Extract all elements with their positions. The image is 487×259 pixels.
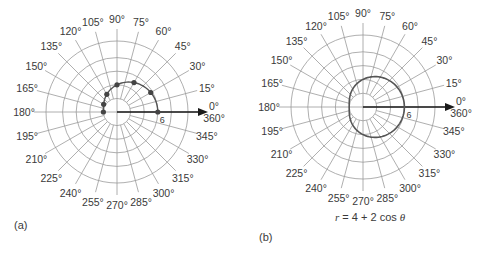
plotted-curve bbox=[103, 82, 157, 112]
equation-body: = 4 + 2 cos bbox=[339, 211, 400, 223]
angle-tick-label: 45° bbox=[422, 35, 438, 47]
equation-caption: r = 4 + 2 cos θ bbox=[335, 211, 405, 223]
angle-tick-label: 90° bbox=[355, 7, 371, 19]
angle-tick-label: 45° bbox=[175, 40, 191, 52]
angle-tick-label: 30° bbox=[190, 60, 206, 72]
angle-tick-label: 210° bbox=[26, 153, 48, 165]
angle-tick-label: 330° bbox=[434, 148, 456, 160]
angle-tick-label: 180° bbox=[258, 101, 280, 113]
angle-tick-label: 330° bbox=[187, 153, 209, 165]
panel-label-a: (a) bbox=[14, 219, 27, 231]
angle-tick-label: 255° bbox=[328, 192, 350, 204]
angle-tick-label: 225° bbox=[286, 167, 308, 179]
angle-tick-label: 90° bbox=[109, 13, 125, 25]
angle-tick-label: 300° bbox=[153, 187, 175, 199]
angle-tick-label: 345° bbox=[196, 130, 218, 142]
angle-tick-label: 60° bbox=[156, 25, 172, 37]
angle-tick-label: 315° bbox=[172, 172, 194, 184]
grid-spoke bbox=[304, 48, 354, 98]
angle-tick-label: 135° bbox=[286, 35, 308, 47]
angle-tick-label: 135° bbox=[40, 40, 62, 52]
data-point bbox=[101, 109, 106, 114]
angle-tick-label: 165° bbox=[16, 82, 38, 94]
angle-tick-label: 30° bbox=[436, 54, 452, 66]
data-point bbox=[114, 82, 119, 87]
data-point bbox=[101, 102, 106, 107]
angle-tick-label: 120° bbox=[305, 20, 327, 32]
angle-tick-label: 105° bbox=[82, 16, 104, 28]
angle-tick-label: 345° bbox=[443, 125, 465, 137]
radial-value-label: 6 bbox=[406, 110, 411, 120]
data-point bbox=[131, 80, 136, 85]
angle-tick-label: 180° bbox=[13, 106, 35, 118]
angle-tick-label: 105° bbox=[328, 10, 350, 22]
angle-tick-label: 195° bbox=[261, 125, 283, 137]
angle-tick-label: 120° bbox=[60, 25, 82, 37]
polar-chart-a: 0°360°15°30°45°60°75°90°105°120°135°150°… bbox=[0, 0, 240, 210]
angle-tick-label: 255° bbox=[82, 196, 104, 208]
panel-label-b: (b) bbox=[259, 231, 272, 243]
angle-tick-label: 165° bbox=[261, 77, 283, 89]
angle-tick-label: 15° bbox=[199, 82, 215, 94]
equation-theta: θ bbox=[400, 211, 405, 223]
angle-tick-label: 60° bbox=[402, 20, 418, 32]
angle-tick-label: 270° bbox=[106, 199, 128, 210]
data-point bbox=[148, 90, 153, 95]
data-point bbox=[155, 109, 160, 114]
angle-tick-label: 75° bbox=[133, 16, 149, 28]
angle-tick-label: 225° bbox=[40, 172, 62, 184]
radial-value-label: 6 bbox=[160, 115, 165, 125]
angle-tick-label: 150° bbox=[26, 60, 48, 72]
grid-spoke bbox=[373, 48, 423, 98]
angle-tick-label: 285° bbox=[130, 196, 152, 208]
angle-tick-label: 240° bbox=[60, 187, 82, 199]
angle-tick-label: 300° bbox=[399, 182, 421, 194]
angle-tick-label: 15° bbox=[446, 77, 462, 89]
grid-spoke bbox=[304, 117, 354, 167]
angle-tick-label: 240° bbox=[305, 182, 327, 194]
polar-chart-b: 0°360°15°30°45°60°75°90°105°120°135°150°… bbox=[240, 0, 487, 210]
angle-tick-label: 315° bbox=[419, 167, 441, 179]
angle-tick-label: 75° bbox=[379, 10, 395, 22]
angle-tick-label: 285° bbox=[376, 192, 398, 204]
angle-tick-label: 270° bbox=[352, 195, 374, 207]
polar-plot-a: 0°360°15°30°45°60°75°90°105°120°135°150°… bbox=[0, 0, 240, 259]
grid-spoke bbox=[373, 117, 423, 167]
data-point bbox=[104, 92, 109, 97]
angle-tick-label: 210° bbox=[271, 148, 293, 160]
angle-tick-label: 150° bbox=[271, 54, 293, 66]
angle-tick-label: 195° bbox=[16, 130, 38, 142]
